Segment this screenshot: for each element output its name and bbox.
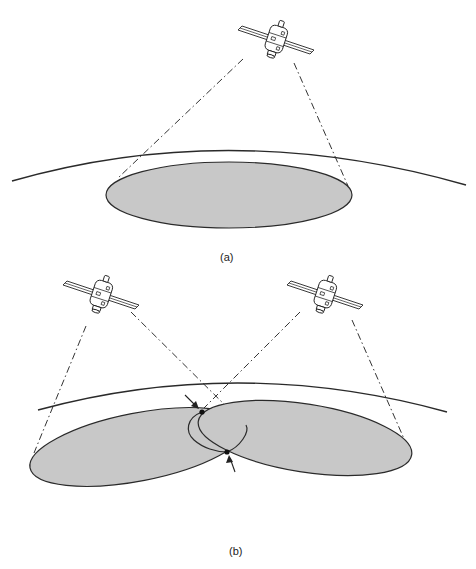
beam-footprint [106,162,352,228]
beam-edge-right [294,63,348,186]
panel-a [12,18,466,228]
satellite-icon [238,18,314,60]
intersection-point-upper [199,409,204,414]
satellite-coverage-diagram [0,0,476,569]
beam-edge-right-sat-left [131,312,238,418]
beam-footprint-right [193,388,417,489]
beam-edge-left [118,59,243,178]
beam-edge-left-sat-right [200,312,300,412]
arrow-icon [226,455,235,472]
satellite-icon [287,273,363,315]
panel-b [24,273,447,501]
panel-b-label: (b) [229,545,242,557]
intersection-point-lower [224,449,229,454]
satellite-icon [63,273,139,315]
panel-a-label: (a) [220,251,233,263]
